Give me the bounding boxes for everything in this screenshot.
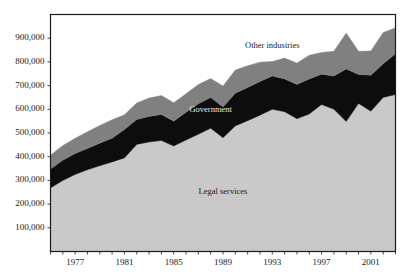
- x-tick-label-1977: 1977: [66, 257, 85, 267]
- y-tick-label-4: 500,000: [15, 127, 45, 137]
- x-tick-label-1993: 1993: [263, 257, 282, 267]
- y-tick-label-6: 700,000: [15, 80, 45, 90]
- x-tick-label-1997: 1997: [313, 257, 332, 267]
- y-tick-label-5: 600,000: [15, 103, 45, 113]
- series-annotation-1: Government: [189, 104, 232, 114]
- x-tick-label-1981: 1981: [115, 257, 133, 267]
- y-tick-label-0: 100,000: [15, 222, 45, 232]
- chart-figure: 100,000200,000300,000400,000500,000600,0…: [0, 0, 409, 279]
- x-tick-label-1985: 1985: [165, 257, 184, 267]
- y-tick-label-1: 200,000: [15, 198, 45, 208]
- x-tick-label-1989: 1989: [214, 257, 233, 267]
- y-tick-label-7: 800,000: [15, 56, 45, 66]
- series-annotation-0: Legal services: [199, 186, 248, 196]
- series-annotation-2: Other industries: [245, 40, 300, 50]
- y-tick-label-2: 300,000: [15, 174, 45, 184]
- x-tick-label-2001: 2001: [362, 257, 380, 267]
- y-tick-label-3: 400,000: [15, 151, 45, 161]
- y-tick-label-8: 900,000: [15, 32, 45, 42]
- stacked-area-chart: 100,000200,000300,000400,000500,000600,0…: [0, 0, 409, 279]
